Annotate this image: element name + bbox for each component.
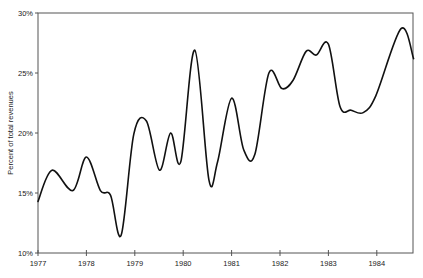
x-tick-label: 1979 bbox=[126, 259, 143, 268]
y-tick-label: 25% bbox=[18, 69, 33, 78]
y-tick-label: 20% bbox=[18, 129, 33, 138]
x-tick-label: 1981 bbox=[223, 259, 240, 268]
y-tick-label: 15% bbox=[18, 189, 33, 198]
y-tick-label: 30% bbox=[18, 9, 33, 18]
x-tick-label: 1980 bbox=[175, 259, 192, 268]
x-tick-label: 1984 bbox=[368, 259, 385, 268]
y-axis: 10%15%20%25%30% bbox=[18, 9, 38, 258]
x-tick-label: 1982 bbox=[272, 259, 289, 268]
x-tick-label: 1977 bbox=[30, 259, 47, 268]
y-axis-title: Percent of total revenues bbox=[6, 91, 15, 175]
x-tick-label: 1978 bbox=[78, 259, 95, 268]
y-tick-label: 10% bbox=[18, 249, 33, 258]
x-tick-label: 1983 bbox=[320, 259, 337, 268]
line-chart: 10%15%20%25%30% 197719781979198019811982… bbox=[0, 0, 423, 278]
plot-frame bbox=[38, 13, 413, 253]
data-line bbox=[38, 28, 414, 237]
